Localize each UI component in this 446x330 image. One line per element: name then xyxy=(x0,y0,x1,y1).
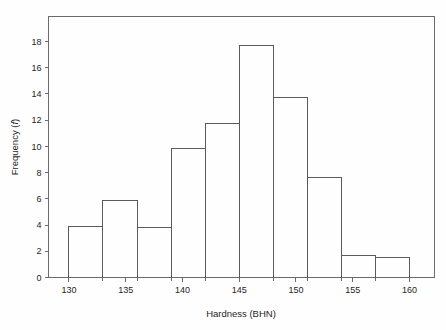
x-tick-label: 135 xyxy=(118,285,133,295)
y-tick-label: 8 xyxy=(36,168,41,178)
histogram-figure: 024681012141618 130135140145150155160 Ha… xyxy=(0,0,446,330)
x-axis-title: Hardness (BHN) xyxy=(206,308,276,319)
y-tick-label: 4 xyxy=(36,220,41,230)
x-tick-label: 145 xyxy=(232,285,247,295)
x-tick-label: 130 xyxy=(61,285,76,295)
x-tick-label: 140 xyxy=(175,285,190,295)
y-tick-label: 16 xyxy=(31,63,41,73)
histogram-chart: 024681012141618 130135140145150155160 Ha… xyxy=(0,0,446,330)
x-tick-label: 160 xyxy=(402,285,417,295)
y-axis-title: Frequency (f) xyxy=(9,119,20,176)
x-tick-label: 150 xyxy=(288,285,303,295)
y-tick-label: 6 xyxy=(36,194,41,204)
y-tick-label: 10 xyxy=(31,142,41,152)
y-tick-label: 18 xyxy=(31,37,41,47)
y-tick-label: 12 xyxy=(31,115,41,125)
y-tick-label: 2 xyxy=(36,246,41,256)
x-tick-label: 155 xyxy=(345,285,360,295)
y-tick-label: 14 xyxy=(31,89,41,99)
y-axis-title-close-paren: ) xyxy=(9,119,20,122)
y-tick-label: 0 xyxy=(36,273,41,283)
y-axis-title-text: Frequency ( xyxy=(9,124,20,176)
chart-background xyxy=(0,0,446,330)
